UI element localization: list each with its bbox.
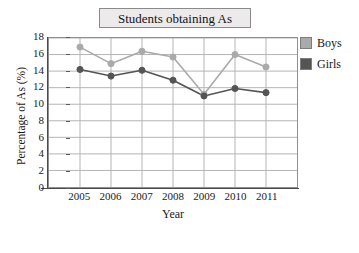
data-point-boys-2010 — [232, 51, 238, 57]
x-tick-label: 2007 — [131, 191, 153, 202]
y-axis-title: Percentage of As (%) — [15, 46, 27, 186]
data-point-boys-2008 — [170, 54, 176, 60]
data-point-girls-2011 — [263, 90, 269, 96]
data-point-girls-2007 — [139, 67, 145, 73]
data-point-girls-2008 — [170, 77, 176, 83]
data-point-boys-2005 — [77, 44, 83, 50]
chart-legend: BoysGirls — [300, 36, 358, 78]
y-tick-mark — [66, 104, 70, 105]
x-axis-line — [41, 188, 299, 189]
y-tick-mark — [66, 188, 70, 189]
legend-item-boys[interactable]: Boys — [300, 36, 358, 49]
x-tick-label: 2009 — [193, 191, 215, 202]
legend-item-girls[interactable]: Girls — [300, 57, 358, 70]
x-axis-title: Year — [48, 207, 298, 222]
x-tick-label: 2006 — [100, 191, 122, 202]
data-point-boys-2006 — [108, 61, 114, 67]
legend-label: Boys — [317, 37, 342, 49]
y-tick-mark — [66, 71, 70, 72]
x-tick-label: 2010 — [225, 191, 247, 202]
data-point-girls-2009 — [201, 93, 207, 99]
y-tick-mark — [66, 121, 70, 122]
x-tick-label: 2005 — [68, 191, 90, 202]
data-point-girls-2010 — [232, 85, 238, 91]
legend-swatch-icon — [300, 58, 312, 70]
data-point-boys-2011 — [263, 64, 269, 70]
y-tick-mark — [66, 87, 70, 88]
y-tick-mark — [66, 138, 70, 139]
y-tick-mark — [66, 37, 70, 38]
chart-title-box: Students obtaining As — [99, 8, 251, 28]
y-tick-label: 18 — [22, 31, 44, 42]
x-tick-label: 2011 — [256, 191, 278, 202]
legend-label: Girls — [317, 58, 341, 70]
y-axis-line — [47, 37, 48, 189]
data-point-girls-2006 — [108, 73, 114, 79]
legend-swatch-icon — [300, 37, 312, 49]
y-tick-mark — [66, 171, 70, 172]
plot-area — [48, 37, 298, 188]
y-tick-mark — [66, 54, 70, 55]
line-chart: Students obtaining As 024681012141618 Pe… — [0, 0, 359, 253]
y-tick-mark — [66, 154, 70, 155]
x-axis-ticks: 2005200620072008200920102011 — [0, 191, 359, 207]
data-point-boys-2007 — [139, 48, 145, 54]
chart-title: Students obtaining As — [118, 12, 232, 25]
data-point-girls-2005 — [77, 66, 83, 72]
x-tick-label: 2008 — [162, 191, 184, 202]
data-series-layer — [49, 38, 297, 187]
